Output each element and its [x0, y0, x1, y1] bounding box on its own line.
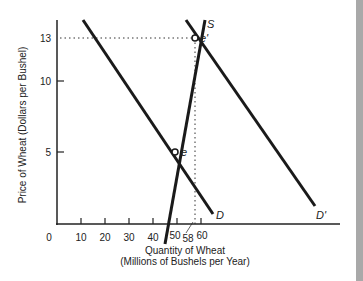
x-tick-60: 60: [196, 230, 208, 241]
label-e-prime: e': [200, 32, 209, 44]
x-tick-20: 20: [99, 232, 111, 243]
x-tick-10: 10: [75, 232, 87, 243]
x-ticks: [81, 218, 201, 224]
y-tick-10: 10: [40, 76, 52, 87]
y-axis-title: Price of Wheat (Dollars per Bushel): [17, 47, 28, 204]
label-d-prime: D': [316, 209, 327, 221]
demand-curve-d-prime: [186, 20, 315, 206]
y-tick-13: 13: [40, 33, 52, 44]
label-d: D: [216, 209, 224, 221]
x-tick-40: 40: [147, 232, 159, 243]
x-tick-50: 50: [169, 230, 181, 241]
x-axis-subtitle: (Millions of Bushels per Year): [120, 256, 250, 267]
equilibrium-e: [172, 149, 178, 155]
supply-curve-s: [165, 20, 205, 244]
supply-demand-chart: 0 10 20 30 40 50 58 60 13 10 5 Quantity …: [0, 0, 363, 281]
y-tick-5: 5: [45, 147, 51, 158]
y-ticks: [57, 81, 64, 152]
x-tick-58: 58: [182, 233, 194, 244]
x-axis-title: Quantity of Wheat: [145, 245, 225, 256]
demand-curve-d: [83, 20, 213, 214]
label-e: e: [181, 146, 187, 158]
equilibrium-e-prime: [192, 35, 198, 41]
label-s: S: [207, 18, 215, 30]
x-tick-0: 0: [46, 232, 52, 243]
x-tick-30: 30: [123, 232, 135, 243]
